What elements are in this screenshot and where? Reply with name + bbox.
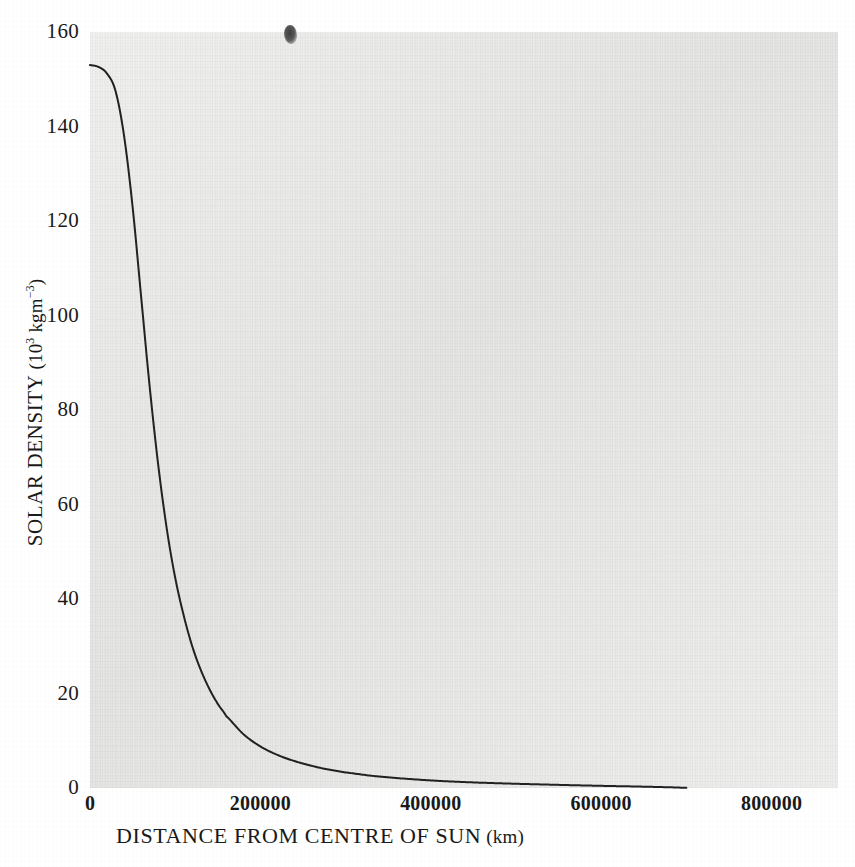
- ink-smudge-artifact: [284, 25, 297, 44]
- figure-canvas: 020406080100120140160 020000040000060000…: [0, 0, 855, 867]
- y-axis-title-wrapper: SOLAR DENSITY (103 kgm−3): [0, 400, 415, 432]
- y-axis-unit: (103 kgm−3): [25, 279, 46, 375]
- x-tick-label: 800000: [741, 793, 802, 813]
- x-tick-label: 400000: [400, 793, 461, 813]
- x-axis-title: DISTANCE FROM CENTRE OF SUN (km): [0, 823, 640, 849]
- x-tick-label: 200000: [230, 793, 291, 813]
- x-tick-label: 600000: [571, 793, 632, 813]
- x-tick-label: 0: [85, 793, 95, 813]
- x-axis-tick-labels: 0200000400000600000800000: [0, 793, 855, 823]
- y-axis-title-text: SOLAR DENSITY: [23, 375, 47, 547]
- x-axis-title-text: DISTANCE FROM CENTRE OF SUN: [116, 823, 481, 848]
- x-axis-unit: (km): [481, 826, 524, 847]
- y-axis-title: SOLAR DENSITY (103 kgm−3): [23, 33, 48, 793]
